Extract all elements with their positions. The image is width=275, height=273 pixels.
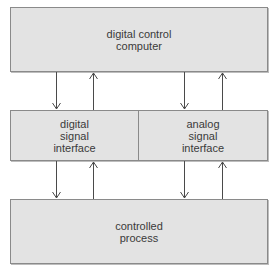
arrow-up-icon bbox=[90, 162, 98, 199]
arrow-up-icon bbox=[90, 73, 98, 110]
arrow-up-icon bbox=[219, 162, 227, 199]
arrow-up-icon bbox=[219, 73, 227, 110]
arrow-down-icon bbox=[181, 161, 189, 198]
arrow-down-icon bbox=[53, 72, 61, 109]
connector-arrows bbox=[0, 0, 275, 273]
arrow-down-icon bbox=[181, 72, 189, 109]
arrow-down-icon bbox=[53, 161, 61, 198]
